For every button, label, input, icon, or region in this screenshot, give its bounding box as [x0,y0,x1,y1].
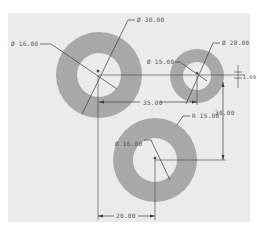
center-point-icon [97,70,100,73]
center-point-icon [154,157,157,160]
label-diameter-16-bottom: Ø 16.00 [115,140,142,147]
label-diameter-16-top: Ø 16.00 [11,40,38,47]
label-dim-small: 1.00 [243,74,256,80]
label-dim-35: 35.00 [143,99,163,106]
label-diameter-30: Ø 30.00 [137,16,164,23]
label-diameter-28: Ø 28.00 [222,39,249,46]
label-dim-20: 20.00 [116,212,136,219]
cad-drawing: Ø 30.00 Ø 16.00 Ø 28.00 Ø 15.00 1.00 35.… [0,0,257,235]
label-diameter-15: Ø 15.00 [147,58,174,65]
label-radius-15: R 15.00 [192,112,219,119]
